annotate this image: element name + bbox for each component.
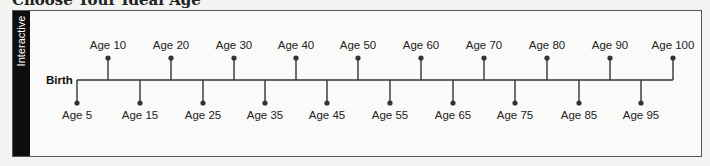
age-dot[interactable]: [638, 100, 643, 105]
age-dot[interactable]: [355, 55, 360, 60]
age-marker[interactable]: [231, 55, 236, 80]
age-dot[interactable]: [387, 100, 392, 105]
age-marker[interactable]: [105, 55, 110, 80]
age-marker[interactable]: [418, 55, 423, 80]
age-label[interactable]: Age 80: [529, 39, 565, 51]
age-dot[interactable]: [512, 100, 517, 105]
age-dot[interactable]: [607, 55, 612, 60]
age-marker[interactable]: [168, 55, 173, 80]
age-marker[interactable]: [262, 80, 267, 106]
age-dot[interactable]: [137, 100, 142, 105]
age-marker[interactable]: [638, 80, 643, 106]
age-label[interactable]: Age 70: [466, 39, 502, 51]
age-label[interactable]: Age 90: [592, 39, 628, 51]
age-dot[interactable]: [293, 55, 298, 60]
age-dot[interactable]: [576, 100, 581, 105]
age-label[interactable]: Age 55: [372, 109, 408, 121]
age-dot[interactable]: [168, 55, 173, 60]
age-dot[interactable]: [418, 55, 423, 60]
age-label[interactable]: Age 45: [309, 109, 345, 121]
age-marker[interactable]: [512, 80, 517, 106]
age-marker[interactable]: [293, 55, 298, 80]
age-marker[interactable]: [355, 55, 360, 80]
age-label[interactable]: Age 5: [62, 109, 92, 121]
age-marker[interactable]: [481, 55, 486, 80]
age-dot[interactable]: [544, 55, 549, 60]
age-label[interactable]: Age 100: [652, 39, 695, 51]
birth-label: Birth: [46, 74, 73, 86]
age-dot[interactable]: [231, 55, 236, 60]
age-marker[interactable]: [387, 80, 392, 106]
age-dot[interactable]: [670, 55, 675, 60]
age-marker[interactable]: [450, 80, 455, 106]
age-label[interactable]: Age 60: [403, 39, 439, 51]
age-label[interactable]: Age 40: [278, 39, 314, 51]
timeline-svg: [0, 0, 710, 166]
age-label[interactable]: Age 25: [185, 109, 221, 121]
age-marker[interactable]: [544, 55, 549, 80]
age-dot[interactable]: [481, 55, 486, 60]
age-dot[interactable]: [74, 100, 79, 105]
age-marker[interactable]: [74, 80, 79, 106]
age-marker[interactable]: [200, 80, 205, 106]
age-marker[interactable]: [137, 80, 142, 106]
age-label[interactable]: Age 65: [435, 109, 471, 121]
age-label[interactable]: Age 15: [122, 109, 158, 121]
age-marker[interactable]: [670, 55, 675, 80]
age-dot[interactable]: [324, 100, 329, 105]
age-label[interactable]: Age 50: [340, 39, 376, 51]
age-label[interactable]: Age 95: [623, 109, 659, 121]
age-label[interactable]: Age 20: [153, 39, 189, 51]
age-label[interactable]: Age 75: [497, 109, 533, 121]
age-marker[interactable]: [576, 80, 581, 106]
age-dot[interactable]: [200, 100, 205, 105]
age-label[interactable]: Age 35: [247, 109, 283, 121]
age-label[interactable]: Age 10: [90, 39, 126, 51]
age-label[interactable]: Age 30: [216, 39, 252, 51]
age-marker[interactable]: [324, 80, 329, 106]
age-dot[interactable]: [262, 100, 267, 105]
age-marker[interactable]: [607, 55, 612, 80]
age-dot[interactable]: [450, 100, 455, 105]
age-dot[interactable]: [105, 55, 110, 60]
age-label[interactable]: Age 85: [561, 109, 597, 121]
